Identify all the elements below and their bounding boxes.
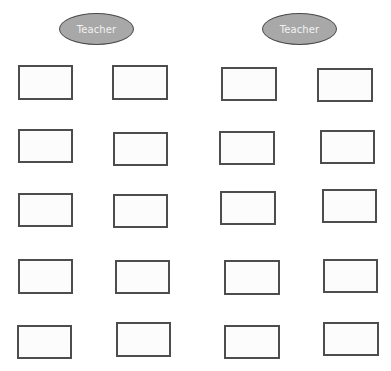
- student-desk-r3-c4: [322, 189, 377, 223]
- teacher-label: Teacher: [77, 24, 117, 35]
- student-desk-r3-c3: [220, 191, 276, 225]
- teacher-label: Teacher: [280, 24, 320, 35]
- student-desk-r1-c4: [317, 68, 373, 102]
- student-desk-r5-c1: [17, 325, 72, 359]
- student-desk-r2-c4: [320, 130, 375, 164]
- classroom-diagram: Teacher Teacher: [0, 0, 391, 371]
- student-desk-r1-c2: [112, 65, 168, 100]
- student-desk-r5-c3: [224, 325, 280, 359]
- student-desk-r1-c3: [221, 67, 277, 101]
- student-desk-r4-c2: [115, 260, 170, 294]
- student-desk-r4-c4: [323, 259, 378, 293]
- student-desk-r2-c1: [18, 129, 73, 163]
- student-desk-r1-c1: [18, 65, 73, 100]
- student-desk-r3-c2: [113, 194, 168, 228]
- student-desk-r5-c4: [323, 322, 379, 356]
- student-desk-r2-c2: [113, 132, 168, 166]
- teacher-desk-left: Teacher: [59, 13, 134, 45]
- student-desk-r3-c1: [18, 193, 73, 227]
- teacher-desk-right: Teacher: [262, 13, 337, 45]
- student-desk-r4-c3: [224, 260, 280, 295]
- student-desk-r2-c3: [219, 131, 275, 165]
- student-desk-r5-c2: [116, 322, 171, 357]
- student-desk-r4-c1: [18, 259, 73, 294]
